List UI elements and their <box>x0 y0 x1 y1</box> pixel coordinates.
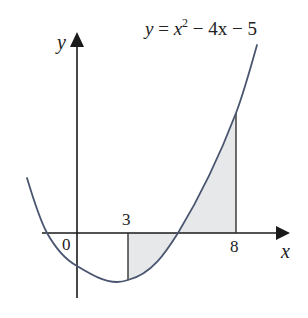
equation-rest: − 4x − 5 <box>188 18 257 39</box>
equation-label: y = x2 − 4x − 5 <box>145 17 257 38</box>
y-axis-label: y <box>57 32 66 52</box>
right-bound-label: 8 <box>230 238 239 255</box>
left-bound-label: 3 <box>122 211 131 228</box>
x-axis-label: x <box>281 241 290 261</box>
shaded-region-below-axis <box>128 233 178 280</box>
x-axis-arrow-icon <box>276 226 290 240</box>
function-graph <box>0 0 308 318</box>
shaded-region-above-axis <box>178 113 236 233</box>
origin-label: 0 <box>62 236 71 253</box>
equation-base: x <box>174 18 182 39</box>
equation-equals: = <box>153 18 173 39</box>
y-axis-arrow-icon <box>70 32 84 47</box>
